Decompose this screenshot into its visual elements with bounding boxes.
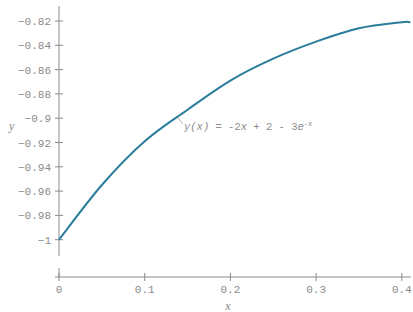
y-tick-label: −1 <box>38 235 52 247</box>
x-tick-label: 0.1 <box>135 284 155 296</box>
y-tick-label: −0.96 <box>18 186 51 198</box>
y-axis: −0.82−0.84−0.86−0.88−0.9−0.92−0.94−0.96−… <box>18 6 63 277</box>
line-chart: −0.82−0.84−0.86−0.88−0.9−0.92−0.94−0.96−… <box>0 0 413 312</box>
y-axis-label: y <box>8 119 15 133</box>
x-tick-label: 0.2 <box>220 284 240 296</box>
curve-annotation: y(x) = -2x + 2 - 3e-x <box>183 120 313 133</box>
y-tick-label: −0.92 <box>18 138 51 150</box>
y-tick-label: −0.82 <box>18 16 51 28</box>
x-tick-label: 0.3 <box>306 284 326 296</box>
x-axis-label: x <box>224 299 231 312</box>
annotation-leader <box>178 118 183 124</box>
y-tick-label: −0.84 <box>18 40 51 52</box>
x-axis: 00.10.20.30.4 <box>55 273 412 296</box>
y-tick-label: −0.88 <box>18 89 51 101</box>
y-tick-label: −0.98 <box>18 210 51 222</box>
y-tick-label: −0.94 <box>18 162 51 174</box>
y-tick-label: −0.9 <box>25 113 51 125</box>
y-tick-label: −0.86 <box>18 65 51 77</box>
x-tick-label: 0 <box>56 284 63 296</box>
x-tick-label: 0.4 <box>392 284 412 296</box>
